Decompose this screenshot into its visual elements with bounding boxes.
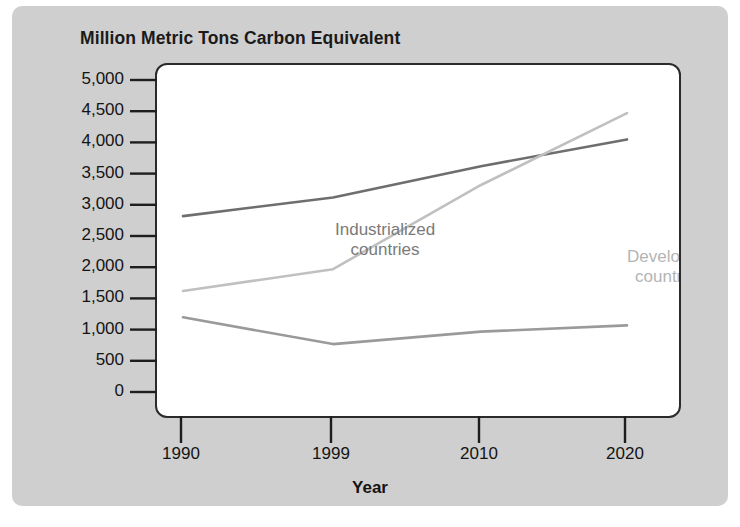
series-label-eastern-line1: Eastern Europe and <box>562 413 681 418</box>
x-axis-title: Year <box>0 478 740 498</box>
y-tick-label: 4,500 <box>38 100 124 120</box>
y-tick-label: 500 <box>38 350 124 370</box>
line-industrialized <box>183 139 627 216</box>
x-tick-label: 2010 <box>439 444 519 464</box>
series-label-developing: Developing countries <box>627 247 681 287</box>
series-label-industrialized-line2: countries <box>335 240 435 260</box>
y-tick-label: 4,000 <box>38 131 124 151</box>
x-tick-label: 1990 <box>141 444 221 464</box>
y-tick-label: 3,500 <box>38 163 124 183</box>
plot-area: Industrialized countries Developing coun… <box>155 63 681 418</box>
y-tick-label: 3,000 <box>38 194 124 214</box>
series-label-eastern-europe: Eastern Europe and former Soviet republi… <box>562 413 681 418</box>
y-tick-label: 2,000 <box>38 256 124 276</box>
y-tick-label: 0 <box>38 381 124 401</box>
y-tick-label: 1,500 <box>38 287 124 307</box>
series-label-industrialized: Industrialized countries <box>335 220 435 260</box>
line-developing <box>183 113 627 291</box>
y-tick-label: 5,000 <box>38 69 124 89</box>
line-eastern-europe <box>183 317 627 344</box>
series-label-developing-line2: countries <box>627 267 681 287</box>
y-tick-label: 2,500 <box>38 225 124 245</box>
series-label-industrialized-line1: Industrialized <box>335 220 435 240</box>
chart-figure: Million Metric Tons Carbon Equivalent In… <box>0 0 740 527</box>
x-tick-label: 1999 <box>291 444 371 464</box>
y-tick-label: 1,000 <box>38 319 124 339</box>
series-label-developing-line1: Developing <box>627 247 681 267</box>
x-tick-label: 2020 <box>585 444 665 464</box>
chart-title: Million Metric Tons Carbon Equivalent <box>80 28 400 49</box>
